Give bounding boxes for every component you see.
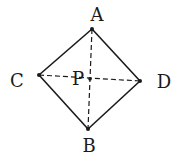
point-P: [88, 77, 92, 81]
label-B: B: [82, 135, 95, 156]
label-P: P: [72, 68, 84, 89]
vertices: [37, 27, 142, 131]
label-C: C: [10, 70, 24, 91]
rhombus-diagram: A B C D P: [0, 0, 178, 164]
edge-BD: [88, 81, 140, 129]
label-D: D: [157, 71, 171, 92]
edge-DA: [92, 29, 140, 81]
point-C: [37, 73, 41, 77]
label-A: A: [90, 4, 105, 25]
point-B: [86, 127, 90, 131]
point-A: [90, 27, 94, 31]
point-D: [138, 79, 142, 83]
